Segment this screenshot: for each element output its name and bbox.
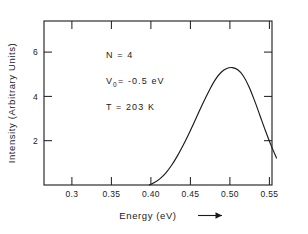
annotation-n-value: N = 4 <box>106 50 133 60</box>
ytick-label-0: 2 <box>33 136 38 146</box>
plot-frame <box>44 21 272 185</box>
y-axis-title: Intensity (Arbitrary Units) <box>6 43 17 164</box>
intensity-vs-energy-chart: 0.3 0.35 0.40 0.45 0.50 0.55 2 4 6 Inten… <box>0 0 308 234</box>
annotation-v0-rest: = -0.5 eV <box>118 76 165 86</box>
xtick-label-0: 0.3 <box>66 189 79 199</box>
ytick-label-2: 6 <box>33 47 38 57</box>
annotation-v0-subscript: 0 <box>113 81 117 88</box>
xtick-label-4: 0.50 <box>221 189 239 199</box>
xtick-label-1: 0.35 <box>103 189 121 199</box>
figure-container: 0.3 0.35 0.40 0.45 0.50 0.55 2 4 6 Inten… <box>0 0 308 234</box>
xtick-label-3: 0.45 <box>182 189 200 199</box>
x-axis-ticks-top <box>72 21 270 29</box>
y-axis-ticks-right <box>264 52 272 141</box>
annotation-t-value: T = 203 K <box>106 102 155 112</box>
x-axis-title: Energy (eV) <box>119 210 176 221</box>
ytick-label-1: 4 <box>33 92 38 102</box>
annotation-v0-value: V 0 = -0.5 eV <box>106 76 165 88</box>
x-axis-tick-labels: 0.3 0.35 0.40 0.45 0.50 0.55 <box>66 189 279 199</box>
x-axis-arrow-icon <box>198 212 222 218</box>
intensity-curve <box>149 68 276 185</box>
xtick-label-2: 0.40 <box>142 189 160 199</box>
xtick-label-5: 0.55 <box>261 189 279 199</box>
y-axis-ticks-left <box>44 52 52 141</box>
y-axis-tick-labels: 2 4 6 <box>33 47 38 146</box>
x-axis-ticks-bottom <box>72 177 270 185</box>
